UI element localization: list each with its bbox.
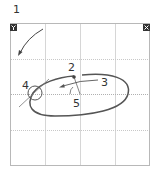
y-axis-badge xyxy=(10,24,17,31)
point-dot xyxy=(72,75,76,79)
ellipse-path-diagram: 1 2 3 4 5 xyxy=(0,0,160,176)
callout-3: 3 xyxy=(101,76,108,89)
callout-5: 5 xyxy=(73,97,80,110)
callout-4: 4 xyxy=(22,79,29,92)
x-axis-badge xyxy=(143,24,150,31)
callout-1: 1 xyxy=(13,3,20,16)
callout-2: 2 xyxy=(68,61,75,74)
